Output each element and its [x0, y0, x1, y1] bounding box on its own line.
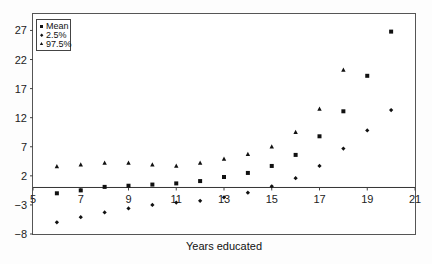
x-tick-label: 17 [313, 193, 325, 205]
legend-label-97-5: 97.5% [46, 39, 72, 49]
point-mean [198, 179, 202, 183]
y-tick-label: −3 [14, 199, 27, 211]
point-mean [222, 175, 226, 179]
point-mean [389, 30, 393, 34]
legend: Mean 2.5% 97.5% [37, 20, 72, 51]
x-tick-label: 7 [78, 193, 84, 205]
y-tick-label: −8 [14, 228, 27, 240]
x-axis-title: Years educated [186, 240, 262, 252]
point-mean [79, 188, 83, 192]
x-tick-label: 9 [125, 193, 131, 205]
x-tick-label: 21 [409, 193, 421, 205]
point-mean [270, 164, 274, 168]
y-tick-label: 17 [15, 83, 27, 95]
x-tick-label: 15 [266, 193, 278, 205]
point-mean [294, 153, 298, 157]
y-tick-label: 2 [21, 170, 27, 182]
y-tick-label: 27 [15, 24, 27, 36]
point-mean [55, 191, 59, 195]
legend-marker-mean [40, 25, 43, 28]
scatter-chart: −8−32712172227 579111315171921 Mean 2.5%… [0, 0, 432, 264]
point-mean [365, 74, 369, 78]
point-mean [103, 185, 107, 189]
x-tick-label: 5 [30, 193, 36, 205]
x-tick-label: 19 [361, 193, 373, 205]
y-tick-label: 22 [15, 54, 27, 66]
point-mean [150, 183, 154, 187]
point-mean [174, 181, 178, 185]
point-mean [341, 109, 345, 113]
y-tick-label: 12 [15, 112, 27, 124]
point-mean [246, 171, 250, 175]
point-mean [127, 184, 131, 188]
point-mean [318, 134, 322, 138]
y-tick-label: 7 [21, 141, 27, 153]
